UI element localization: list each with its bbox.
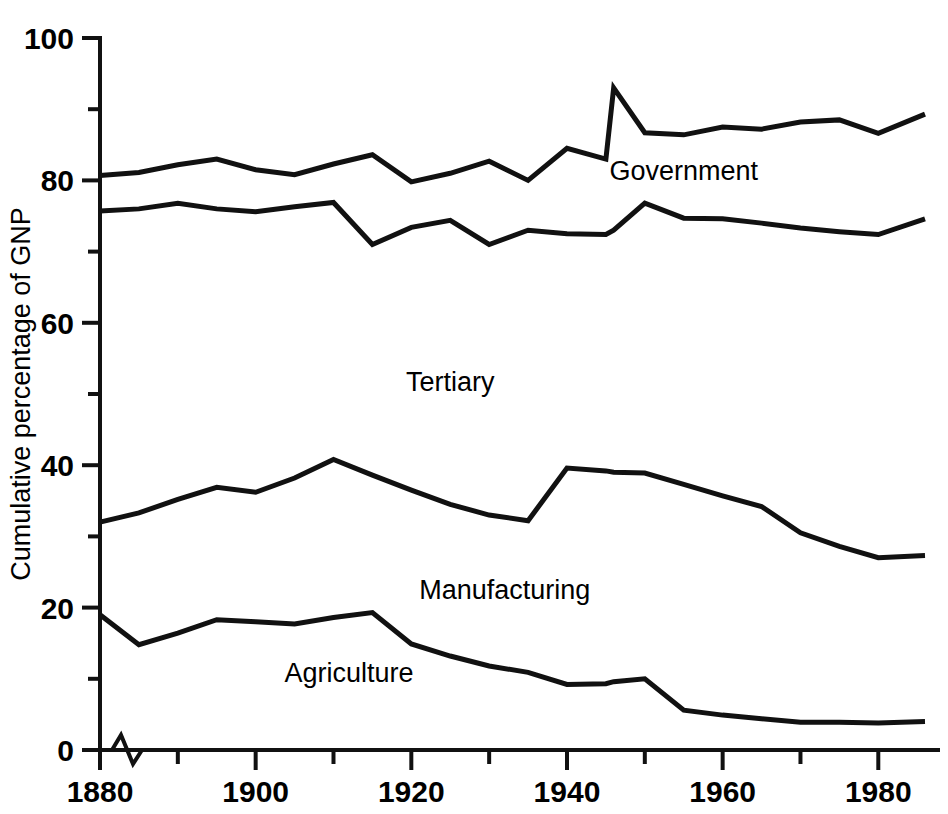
x-tick-label: 1980 <box>845 775 912 808</box>
x-tick-label: 1900 <box>222 775 289 808</box>
series-annotation-manufacturing: Manufacturing <box>419 575 590 605</box>
y-tick-label: 40 <box>41 449 74 482</box>
series-line-tertiary <box>100 202 925 244</box>
x-tick-label: 1920 <box>378 775 445 808</box>
y-tick-label: 20 <box>41 592 74 625</box>
y-tick-label: 0 <box>57 734 74 767</box>
series-annotation-government: Government <box>609 156 758 186</box>
chart-container: 020406080100 188019001920194019601980 Go… <box>0 0 948 814</box>
series-line-manufacturing <box>100 460 925 558</box>
y-axis-ticks <box>82 38 100 750</box>
x-axis-ticks <box>100 750 878 770</box>
y-tick-label: 80 <box>41 164 74 197</box>
series-lines <box>100 88 925 723</box>
gnp-line-chart: 020406080100 188019001920194019601980 Go… <box>0 0 948 814</box>
y-tick-label: 100 <box>24 22 74 55</box>
series-annotation-tertiary: Tertiary <box>406 367 495 397</box>
y-tick-label: 60 <box>41 307 74 340</box>
y-axis-title: Cumulative percentage of GNP <box>6 207 36 581</box>
series-annotation-agriculture: Agriculture <box>285 658 414 688</box>
series-line-government <box>100 88 925 182</box>
x-tick-labels: 188019001920194019601980 <box>67 775 912 808</box>
x-tick-label: 1960 <box>689 775 756 808</box>
series-line-agriculture <box>100 613 925 723</box>
x-tick-label: 1880 <box>67 775 134 808</box>
series-annotations: GovernmentTertiaryManufacturingAgricultu… <box>285 156 759 687</box>
x-tick-label: 1940 <box>534 775 601 808</box>
